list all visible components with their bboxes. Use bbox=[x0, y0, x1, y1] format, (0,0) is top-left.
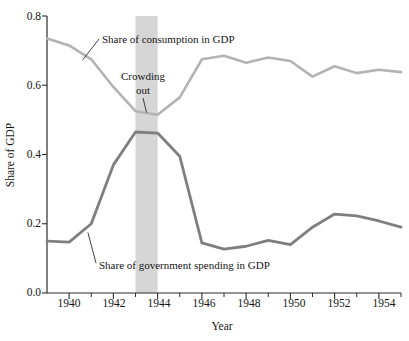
leader-line-government-spending bbox=[88, 232, 96, 263]
chart-container: 0.8 0.6 0.4 0.2 0.0 1940 1942 1944 1946 … bbox=[0, 0, 409, 341]
series-line-consumption bbox=[47, 39, 401, 115]
y-axis-title: Share of GDP bbox=[4, 123, 16, 188]
leader-line-consumption bbox=[82, 39, 99, 60]
crowding-out-band bbox=[136, 16, 158, 293]
x-tick-label-1944: 1944 bbox=[148, 297, 171, 309]
x-tick-label-1948: 1948 bbox=[238, 297, 261, 309]
annotation-crowding-out-line1: Crowding bbox=[121, 70, 166, 82]
x-tick-label-1940: 1940 bbox=[58, 297, 81, 309]
x-tick-label-1952: 1952 bbox=[328, 297, 351, 309]
annotation-crowding-out-line2: out bbox=[136, 84, 150, 96]
y-tick-label-0.2: 0.2 bbox=[27, 217, 42, 229]
y-tick-label-0.4: 0.4 bbox=[27, 148, 42, 160]
x-tick-label-1942: 1942 bbox=[103, 297, 126, 309]
y-tick-label-0.0: 0.0 bbox=[27, 286, 42, 298]
x-tick-label-1950: 1950 bbox=[283, 297, 306, 309]
annotation-government-spending: Share of government spending in GDP bbox=[99, 259, 270, 271]
annotation-consumption: Share of consumption in GDP bbox=[102, 33, 235, 45]
x-tick-label-1954: 1954 bbox=[373, 297, 396, 309]
line-chart: 0.8 0.6 0.4 0.2 0.0 1940 1942 1944 1946 … bbox=[0, 0, 409, 341]
y-tick-label-0.8: 0.8 bbox=[27, 10, 42, 22]
y-axis-ticks bbox=[42, 16, 47, 293]
y-tick-label-0.6: 0.6 bbox=[27, 79, 42, 91]
x-axis-title: Year bbox=[211, 320, 232, 332]
series-line-government-spending bbox=[47, 132, 401, 249]
x-tick-label-1946: 1946 bbox=[193, 297, 216, 309]
